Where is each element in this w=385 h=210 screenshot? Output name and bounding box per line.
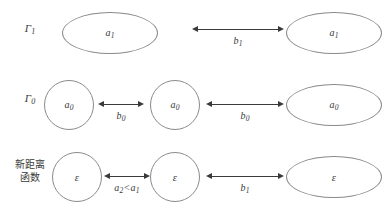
row1-ellipse-right-label: a1 xyxy=(287,27,381,40)
row3-arrow-b1: b1 xyxy=(206,176,284,177)
row2-circle-middle-label: a0 xyxy=(151,99,199,112)
row1-ellipse-left-label: a1 xyxy=(63,27,157,40)
row3-circle-left-label: ε xyxy=(53,172,101,183)
diagram-row-gamma-1: Γ1 a1 b1 a1 xyxy=(0,0,385,70)
row1-arrow-b1: b1 xyxy=(192,29,284,30)
row2-ellipse-right: a0 xyxy=(286,84,382,126)
row2-circle-left-label: a0 xyxy=(45,99,93,112)
row-label-gamma-1: Γ1 xyxy=(4,22,56,36)
row3-arrow-a2-lt-a1: a2<a1 xyxy=(104,176,150,177)
diagram-row-new-distance-function: 新距离 函数 ε a2<a1 ε b1 ε xyxy=(0,140,385,210)
row-label-line-1: 新距离 xyxy=(4,158,56,171)
row2-arrow-b0-right-label: b0 xyxy=(206,110,284,123)
row1-ellipse-right: a1 xyxy=(286,12,382,54)
row3-circle-middle-label: ε xyxy=(151,172,199,183)
row2-arrow-b0-left: b0 xyxy=(98,104,144,105)
arrow-head-right-icon xyxy=(138,101,144,107)
arrow-head-right-icon xyxy=(278,101,284,107)
arrow-line xyxy=(210,176,280,177)
diagram-row-gamma-0: Γ0 a0 b0 a0 b0 a0 xyxy=(0,70,385,140)
arrow-head-right-icon xyxy=(278,26,284,32)
row2-arrow-b0-right: b0 xyxy=(206,104,284,105)
row2-ellipse-right-label: a0 xyxy=(287,99,381,112)
row2-circle-left: a0 xyxy=(44,80,94,130)
row3-arrow-b1-label: b1 xyxy=(206,182,284,195)
row3-circle-left: ε xyxy=(52,152,102,202)
row2-circle-middle: a0 xyxy=(150,80,200,130)
arrow-line xyxy=(196,29,280,30)
row3-arrow-a2-lt-a1-label: a2<a1 xyxy=(104,182,150,195)
row1-ellipse-left: a1 xyxy=(62,12,158,54)
figure-canvas: Γ1 a1 b1 a1 Γ0 a0 b0 a0 xyxy=(0,0,385,210)
row3-ellipse-right: ε xyxy=(286,156,382,198)
arrow-head-right-icon xyxy=(278,173,284,179)
row-label-line-2: 函数 xyxy=(4,171,56,184)
row2-arrow-b0-left-label: b0 xyxy=(98,110,144,123)
row-label-subscript: 0 xyxy=(31,97,35,106)
arrow-line xyxy=(108,176,146,177)
arrow-line xyxy=(210,104,280,105)
arrow-line xyxy=(102,104,140,105)
row1-arrow-b1-label: b1 xyxy=(192,35,284,48)
row-label-subscript: 1 xyxy=(31,27,35,36)
row3-circle-middle: ε xyxy=(150,152,200,202)
row-label-new-distance-function: 新距离 函数 xyxy=(4,158,56,184)
row3-ellipse-right-label: ε xyxy=(287,172,381,183)
